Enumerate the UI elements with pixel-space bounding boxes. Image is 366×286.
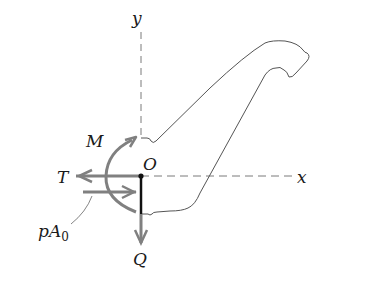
faucet-free-body-diagram: y x O M T Q pA0: [0, 0, 366, 286]
pressure-force-label: pA0: [38, 221, 69, 244]
origin-label: O: [143, 154, 157, 174]
moment-M-label: M: [85, 131, 104, 151]
origin-point: [138, 173, 143, 178]
x-axis-label: x: [297, 167, 307, 187]
shear-Q-label: Q: [133, 249, 147, 269]
y-axis-label: y: [131, 8, 142, 28]
faucet-body-outline: [141, 41, 309, 215]
pA0-leader-line: [71, 196, 92, 224]
tension-T-label: T: [57, 167, 70, 187]
